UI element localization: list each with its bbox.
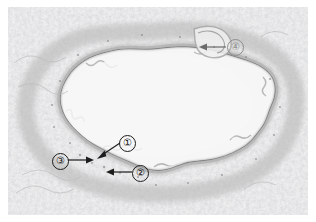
annotation-layer: ④ ① ③ bbox=[8, 7, 308, 215]
arrow-4-icon bbox=[198, 40, 230, 54]
annotation-marker-2: ② bbox=[132, 165, 149, 182]
arrow-3-icon bbox=[66, 153, 96, 167]
annotation-marker-3: ③ bbox=[52, 153, 69, 170]
figure-micrograph: ④ ① ③ bbox=[0, 0, 316, 222]
micrograph-image: ④ ① ③ bbox=[8, 7, 308, 215]
annotation-marker-1: ① bbox=[119, 135, 136, 152]
arrow-2-icon bbox=[105, 165, 135, 179]
annotation-marker-4: ④ bbox=[227, 39, 244, 56]
